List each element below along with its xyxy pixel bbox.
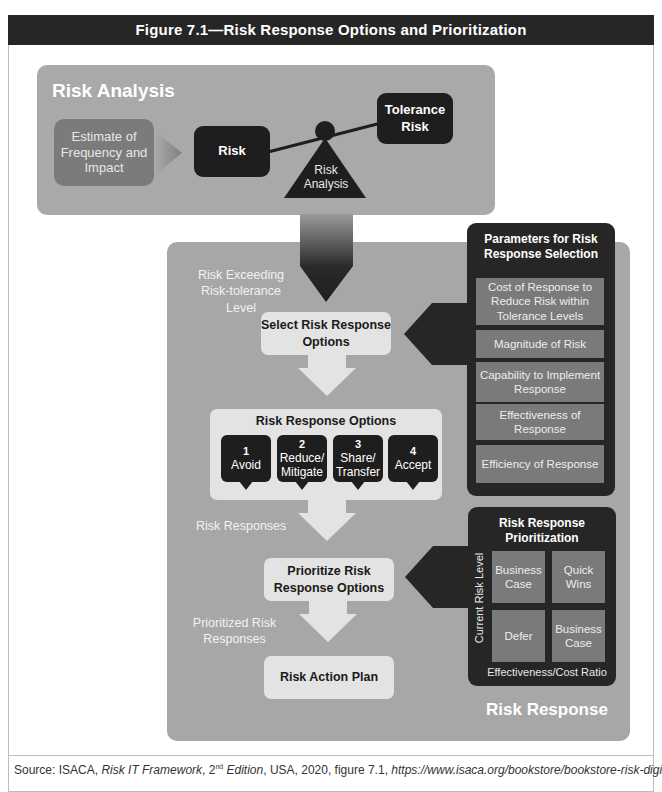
arrow-down-icon bbox=[298, 354, 358, 399]
prioritize-options-box: Prioritize Risk Response Options bbox=[264, 558, 394, 601]
option-number: 1 bbox=[243, 445, 249, 458]
option-number: 2 bbox=[299, 438, 305, 451]
quadrant-top-right: Quick Wins bbox=[552, 551, 605, 603]
option-label: Reduce/ Mitigate bbox=[277, 451, 327, 480]
quadrant-top-left: Business Case bbox=[492, 551, 545, 603]
estimate-box: Estimate of Frequency and Impact bbox=[54, 119, 154, 186]
options-title: Risk Response Options bbox=[210, 414, 442, 428]
arrow-down-icon bbox=[299, 600, 359, 645]
y-axis-label: Current Risk Level bbox=[473, 548, 485, 648]
select-options-box: Select Risk Response Options bbox=[261, 312, 391, 355]
parameter-item: Magnitude of Risk bbox=[476, 330, 604, 358]
divider bbox=[8, 755, 654, 756]
option-label: Share/ Transfer bbox=[333, 451, 383, 480]
option-label: Accept bbox=[395, 458, 432, 472]
source-prefix: Source: ISACA, bbox=[14, 763, 101, 777]
option-accept: 4 Accept bbox=[388, 435, 438, 482]
exceeding-label: Risk Exceeding Risk-tolerance Level bbox=[186, 267, 296, 316]
prioritized-label: Prioritized Risk Responses bbox=[192, 615, 277, 648]
arrow-right-icon bbox=[154, 130, 186, 176]
source-book: Risk IT Framework bbox=[101, 763, 202, 777]
x-axis-label: Effectiveness/Cost Ratio bbox=[480, 666, 614, 678]
arrow-down-icon bbox=[298, 499, 358, 544]
risk-analysis-title: Risk Analysis bbox=[52, 80, 175, 102]
risk-box: Risk bbox=[194, 126, 270, 177]
speech-pointers-icon bbox=[221, 481, 451, 493]
option-reduce: 2 Reduce/ Mitigate bbox=[277, 435, 327, 482]
parameter-item: Cost of Response to Reduce Risk within T… bbox=[476, 278, 604, 325]
source-edition-num: , 2 bbox=[202, 763, 215, 777]
option-number: 4 bbox=[410, 445, 416, 458]
arrow-left-icon bbox=[405, 546, 471, 608]
source-link[interactable]: https://www.isaca.org/bookstore/bookstor… bbox=[391, 763, 662, 777]
quadrant-bottom-left: Defer bbox=[492, 610, 545, 662]
option-label: Avoid bbox=[231, 458, 261, 472]
risk-response-title: Risk Response bbox=[486, 700, 608, 720]
action-plan-box: Risk Action Plan bbox=[264, 656, 394, 699]
parameter-item: Capability to Implement Response bbox=[476, 362, 604, 402]
quadrant-bottom-right: Business Case bbox=[552, 610, 605, 662]
prioritization-title: Risk Response Prioritization bbox=[470, 516, 614, 546]
source-citation: Source: ISACA, Risk IT Framework, 2nd Ed… bbox=[14, 763, 662, 777]
arrow-left-icon bbox=[404, 303, 470, 365]
option-avoid: 1 Avoid bbox=[221, 435, 271, 482]
option-share: 3 Share/ Transfer bbox=[333, 435, 383, 482]
source-suffix: , USA, 2020, figure 7.1, bbox=[263, 763, 391, 777]
parameter-item: Efficiency of Response bbox=[476, 445, 604, 483]
responses-label: Risk Responses bbox=[196, 518, 286, 534]
fulcrum-label: Risk Analysis bbox=[300, 163, 352, 192]
option-number: 3 bbox=[355, 438, 361, 451]
source-edition-rest: Edition bbox=[223, 763, 263, 777]
arrow-down-icon bbox=[297, 214, 357, 304]
figure-title: Figure 7.1—Risk Response Options and Pri… bbox=[8, 15, 654, 45]
parameters-title: Parameters for Risk Response Selection bbox=[470, 232, 612, 262]
parameter-item: Effectiveness of Response bbox=[476, 404, 604, 440]
